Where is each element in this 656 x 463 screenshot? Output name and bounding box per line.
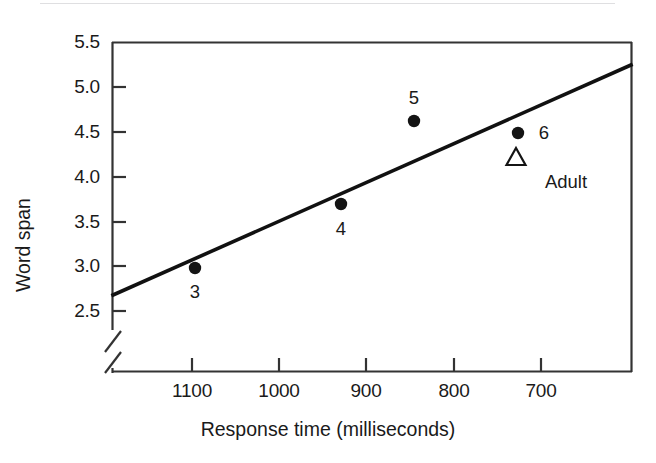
data-point-label-5: 5	[409, 87, 419, 109]
y-tick-label-5-5: 5.5	[42, 31, 100, 53]
data-point-5	[408, 115, 420, 127]
data-point-label-3: 3	[190, 281, 200, 303]
data-point-adult-triangle	[507, 148, 526, 165]
x-axis-ticks	[192, 358, 541, 372]
y-axis-title: Word span	[12, 198, 35, 292]
y-axis-ticks	[112, 87, 126, 311]
y-tick-label-5-0: 5.0	[42, 76, 100, 98]
data-point-4	[335, 198, 347, 210]
data-point-3	[189, 262, 201, 274]
y-tick-label-3-5: 3.5	[42, 211, 100, 233]
data-point-label-6: 6	[539, 122, 549, 144]
data-point-label-adult: Adult	[545, 171, 587, 193]
x-tick-label-900: 900	[350, 380, 381, 402]
y-tick-label-2-5: 2.5	[42, 300, 100, 322]
plot-frame	[112, 42, 632, 373]
y-axis-break-marks	[105, 331, 121, 373]
data-point-6	[512, 127, 524, 139]
x-axis-title: Response time (milliseconds)	[201, 418, 456, 441]
x-tick-label-1000: 1000	[258, 380, 299, 402]
x-tick-label-800: 800	[438, 380, 469, 402]
y-tick-label-4-5: 4.5	[42, 121, 100, 143]
x-tick-label-1100: 1100	[172, 380, 212, 402]
x-tick-label-700: 700	[525, 380, 556, 402]
y-tick-label-3-0: 3.0	[42, 255, 100, 277]
y-tick-label-4-0: 4.0	[42, 166, 100, 188]
scatter-plot-figure: 5.5 5.0 4.5 4.0 3.5 3.0 2.5 1100 1000 90…	[0, 0, 656, 463]
data-point-label-4: 4	[336, 218, 346, 240]
